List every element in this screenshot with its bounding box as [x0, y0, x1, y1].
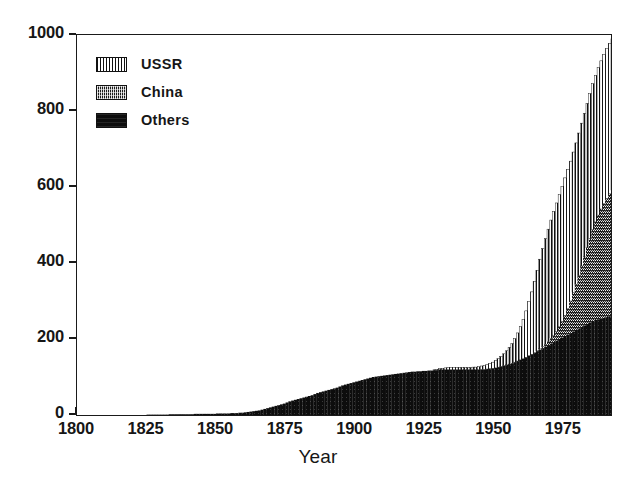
legend-item-china: China: [96, 78, 190, 106]
legend-swatch-china-icon: [96, 85, 127, 100]
bar-segment-others: [213, 414, 216, 415]
bar-segment-others: [522, 359, 525, 415]
bar-segment-others: [219, 413, 222, 415]
bar-segment-others: [185, 414, 188, 415]
bar-segment-others: [272, 407, 275, 415]
bar-segment-others: [319, 392, 322, 415]
bar-segment-others: [444, 370, 447, 415]
y-tick-label: 400: [37, 251, 64, 270]
bar-segment-others: [564, 336, 567, 415]
bar-segment-others: [350, 383, 353, 415]
y-tick-label: 800: [37, 99, 64, 118]
bar-segment-others: [505, 365, 508, 415]
bar-segment-others: [383, 375, 386, 415]
bar-segment-others: [416, 371, 419, 415]
bar-segment-others: [352, 382, 355, 415]
x-axis-title: Year: [0, 446, 636, 468]
bar-segment-others: [386, 375, 389, 415]
bar-segment-others: [338, 387, 341, 416]
bar-segment-china: [578, 275, 581, 328]
x-tick-label: 1900: [324, 419, 384, 438]
bar-segment-others: [180, 414, 183, 415]
bar-segment-others: [411, 372, 414, 415]
bar-segment-others: [575, 330, 578, 415]
bar-segment-others: [205, 414, 208, 415]
legend-swatch-ussr-icon: [96, 57, 127, 72]
bar-segment-others: [372, 377, 375, 415]
bar-segment-china: [600, 209, 603, 318]
y-tick-mark: [69, 261, 76, 263]
bar-segment-others: [208, 414, 211, 415]
bar-segment-others: [169, 414, 172, 415]
bar-segment-china: [561, 322, 564, 338]
bar-segment-china: [550, 339, 553, 344]
bar-segment-others: [230, 413, 233, 415]
bar-segment-others: [311, 395, 314, 415]
bar-segment-china: [558, 327, 561, 339]
bar-segment-others: [255, 411, 258, 415]
bar-segment-china: [583, 257, 586, 325]
bar-segment-others: [402, 373, 405, 415]
bar-segment-others: [497, 367, 500, 415]
y-tick-mark: [69, 109, 76, 111]
bar-segment-others: [389, 375, 392, 415]
bar-segment-others: [553, 342, 556, 415]
bar-segment-others: [514, 362, 517, 415]
chart-figure: 02004006008001000 1800182518501875190019…: [0, 0, 636, 488]
bar-segment-others: [325, 391, 328, 415]
bar-segment-others: [430, 371, 433, 415]
bar-segment-others: [363, 379, 366, 415]
bar-segment-others: [455, 370, 458, 415]
bar-segment-china: [589, 239, 592, 323]
bar-segment-others: [369, 378, 372, 415]
bar-segment-china: [553, 335, 556, 342]
bar-segment-others: [519, 360, 522, 415]
x-tick-label: 1875: [255, 419, 315, 438]
bar-segment-others: [572, 331, 575, 415]
bar-segment-others: [316, 393, 319, 415]
bar-segment-others: [589, 322, 592, 415]
bar-segment-others: [286, 402, 289, 415]
bar-segment-others: [592, 321, 595, 415]
bar-segment-others: [478, 370, 481, 415]
bar-segment-others: [191, 414, 194, 415]
bar-segment-china: [567, 309, 570, 335]
bar-segment-others: [336, 388, 339, 415]
bar-segment-others: [475, 370, 478, 415]
bar-segment-others: [188, 414, 191, 415]
bar-segment-others: [377, 376, 380, 415]
bar-segment-others: [294, 400, 297, 415]
y-tick-mark: [69, 33, 76, 35]
bar-segment-others: [222, 413, 225, 415]
bar-segment-others: [500, 366, 503, 415]
bar-segment-others: [447, 370, 450, 415]
bar-segment-others: [525, 357, 528, 415]
bar-segment-others: [202, 414, 205, 415]
bar-segment-others: [247, 412, 250, 415]
bar-segment-others: [269, 407, 272, 415]
legend-label-others: Others: [141, 112, 190, 128]
bar-segment-china: [592, 230, 595, 321]
bar-segment-others: [333, 388, 336, 415]
bar-segment-others: [174, 414, 177, 415]
bar-segment-others: [464, 370, 467, 415]
bar-segment-others: [450, 370, 453, 415]
legend-item-others: Others: [96, 106, 190, 134]
bar-segment-others: [249, 412, 252, 415]
bar-segment-others: [461, 370, 464, 415]
bar-segment-others: [469, 370, 472, 415]
bar-segment-others: [547, 345, 550, 415]
bar-segment-others: [419, 371, 422, 415]
bar-segment-others: [355, 382, 358, 415]
bar-segment-others: [483, 369, 486, 415]
legend-label-china: China: [141, 84, 183, 100]
bar-segment-others: [508, 364, 511, 415]
bar-segment-others: [283, 404, 286, 415]
bar-segment-others: [244, 412, 247, 415]
bar-segment-china: [594, 222, 597, 320]
bar-segment-others: [400, 373, 403, 415]
bar-segment-others: [541, 348, 544, 415]
bar-segment-others: [580, 327, 583, 415]
bar-segment-others: [397, 374, 400, 415]
y-tick-label: 200: [37, 327, 64, 346]
